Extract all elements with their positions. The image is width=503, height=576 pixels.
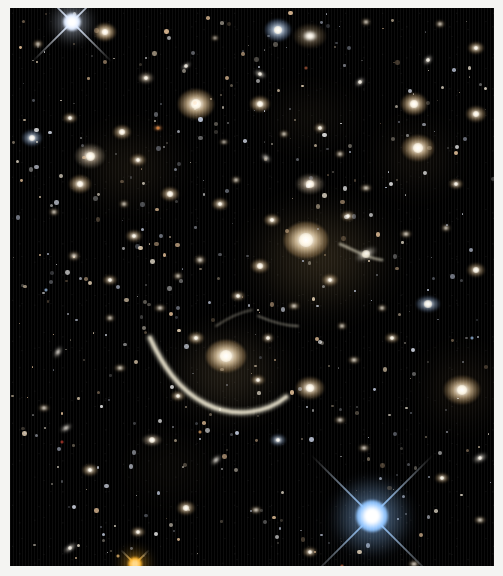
deep-field-sky [10,8,494,566]
lensing-arclet [258,316,298,326]
image-frame [0,0,503,576]
lensing-arc-svg [10,8,494,566]
lensing-arclet [340,244,382,260]
lensing-arclet [216,310,252,326]
dragon-arc [150,338,286,412]
